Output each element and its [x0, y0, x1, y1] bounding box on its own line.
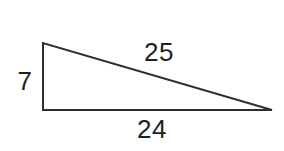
- right-triangle-figure: 7 25 24: [0, 0, 284, 151]
- triangle-diagram: 7 25 24: [0, 0, 284, 151]
- base-label: 24: [137, 114, 167, 144]
- hypotenuse-label: 25: [144, 37, 174, 67]
- left-side-label: 7: [18, 66, 33, 96]
